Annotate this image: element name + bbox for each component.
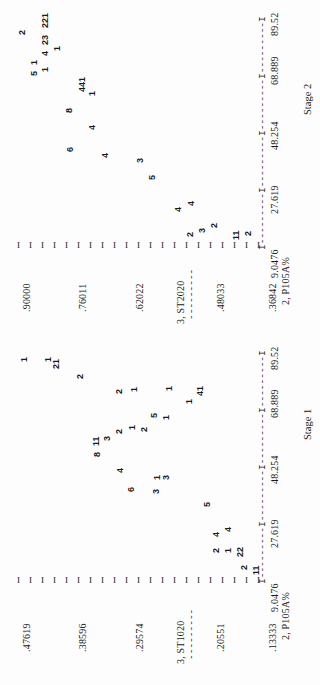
stage1-xtick: 89.52 (270, 347, 280, 371)
stage1-xtick: 48.254 (270, 455, 280, 484)
axis-mark: I (209, 575, 212, 585)
axis-mark: I (221, 240, 224, 250)
axis-mark: I (113, 240, 116, 250)
data-point: 3 (162, 475, 171, 480)
axis-mark: I (137, 240, 140, 250)
document-page: .47619 .38596 .29574 3, ST1020 ---------… (0, 0, 320, 685)
data-point: 3 (136, 158, 145, 163)
axis-mark: I (149, 575, 152, 585)
axis-mark: I (41, 575, 44, 585)
data-point: 2 (186, 232, 195, 237)
stage1-ytick: .38596 (78, 623, 88, 652)
axis-mark: I (101, 575, 104, 585)
stage2-caption: Stage 2 (303, 84, 314, 115)
data-point: 4 (212, 532, 221, 537)
axis-mark: I (137, 575, 140, 585)
stage2-xtick: 89.52 (270, 13, 280, 37)
stage1-y-rule: --------- (187, 609, 197, 660)
axis-mark: I (125, 240, 128, 250)
data-point: 3 (103, 436, 112, 441)
data-point: 8 (93, 452, 102, 457)
data-point: 1 (44, 357, 53, 362)
axis-mark: I (185, 575, 188, 585)
data-point: 5 (30, 71, 39, 76)
axis-mark: I (41, 240, 44, 250)
data-point: 11 (92, 436, 101, 446)
data-point: 1 (165, 386, 174, 391)
axis-mark: I (89, 575, 92, 585)
axis-mark: I (101, 240, 104, 250)
axis-mark: I (149, 240, 152, 250)
data-point: 5 (203, 502, 212, 507)
axis-mark: I (197, 575, 200, 585)
data-point: 8 (65, 108, 74, 113)
stage1-ytick: .20551 (216, 623, 226, 652)
axis-mark: I (77, 575, 80, 585)
data-point: 1 (20, 357, 29, 362)
axis-mark: I (53, 240, 56, 250)
stage1-ytick: .29574 (135, 623, 145, 652)
stage2-x-variable: 2, P105A% (281, 257, 291, 305)
data-point: 2 (244, 231, 253, 236)
data-point: 6 (66, 147, 75, 152)
axis-mark: I (173, 575, 176, 585)
stage2-x-axis-line: I---------I---------I---------I---------… (258, 16, 268, 250)
axis-mark: I (125, 575, 128, 585)
axis-mark: I (65, 240, 68, 250)
axis-mark: I (245, 575, 248, 585)
data-point: 1 (128, 425, 137, 430)
stage1-caption: Stage 1 (303, 409, 314, 440)
axis-mark: I (29, 575, 32, 585)
data-point: 4 (41, 51, 50, 56)
data-point: 4 (116, 468, 125, 473)
stage2-ytick: .48033 (216, 283, 226, 312)
stage1-xtick: 9.0476 (270, 583, 280, 612)
data-point: 1 (162, 415, 171, 420)
data-point: 1 (224, 548, 233, 553)
data-point: 4 (88, 125, 97, 130)
data-point: 1 (88, 91, 97, 96)
data-point: 221 (41, 13, 50, 28)
axis-mark: I (53, 575, 56, 585)
axis-mark: I (161, 575, 164, 585)
data-point: 3 (198, 228, 207, 233)
data-point: 5 (148, 175, 157, 180)
data-point: 1 (185, 399, 194, 404)
stage1-ytick: .13333 (268, 623, 278, 652)
stage2-ytick: .62022 (135, 283, 145, 312)
data-point: 21 (52, 359, 61, 369)
data-point: 4 (224, 527, 233, 532)
data-point: 41 (196, 386, 205, 396)
data-point: 1 (41, 67, 50, 72)
stage2-xtick: 68.889 (270, 56, 280, 85)
stage2-ytick: .90000 (22, 283, 32, 312)
axis-mark: I (209, 240, 212, 250)
axis-mark: I (17, 575, 20, 585)
data-point: 22 (236, 547, 245, 557)
data-point: 4 (174, 207, 183, 212)
stage2-xtick: 27.619 (270, 185, 280, 214)
axis-mark: I (185, 240, 188, 250)
axis-mark: I (233, 575, 236, 585)
axis-mark: I (161, 240, 164, 250)
stage1-xtick: 27.619 (270, 519, 280, 548)
axis-mark: I (113, 575, 116, 585)
data-point: 2 (212, 548, 221, 553)
data-point: 4 (187, 201, 196, 206)
stage1-x-axis-line: I---------I---------I---------I---------… (258, 350, 268, 584)
axis-mark: I (17, 240, 20, 250)
data-point: 5 (150, 413, 159, 418)
axis-mark: I (89, 240, 92, 250)
axis-mark: I (173, 240, 176, 250)
data-point: 2 (115, 429, 124, 434)
data-point: 441 (78, 77, 87, 92)
axis-mark: I (29, 240, 32, 250)
data-point: 2 (210, 223, 219, 228)
data-point: 2 (18, 30, 27, 35)
data-point: 2 (76, 374, 85, 379)
data-point: 23 (41, 35, 50, 45)
stage2-xtick: 9.0476 (270, 249, 280, 278)
stage1-ytick: .47619 (22, 623, 32, 652)
axis-mark: I (65, 575, 68, 585)
data-point: 1 (53, 46, 62, 51)
